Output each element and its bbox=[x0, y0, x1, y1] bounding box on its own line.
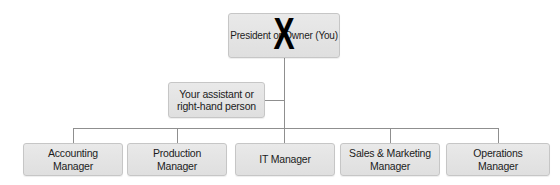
root-node-label: President or Owner (You) bbox=[230, 30, 338, 42]
connector-drop-accounting bbox=[73, 128, 74, 143]
manager-node-production: Production Manager bbox=[127, 143, 227, 176]
connector-drop-operations bbox=[498, 128, 499, 143]
org-chart-canvas: President or Owner (You) X Your assistan… bbox=[0, 0, 560, 185]
connector-assistant-horizontal bbox=[265, 100, 284, 101]
assistant-node: Your assistant or right-hand person bbox=[168, 82, 265, 118]
manager-node-label: Production Manager bbox=[134, 147, 220, 171]
manager-node-accounting: Accounting Manager bbox=[23, 143, 123, 176]
manager-node-operations: Operations Manager bbox=[446, 143, 550, 176]
manager-node-label: Accounting Manager bbox=[30, 147, 116, 171]
root-node-president-owner: President or Owner (You) bbox=[228, 13, 340, 58]
manager-node-label: IT Manager bbox=[259, 153, 311, 165]
assistant-node-label: Your assistant or right-hand person bbox=[175, 88, 258, 112]
manager-node-label: Sales & Marketing Manager bbox=[347, 147, 433, 171]
connector-trunk-vertical bbox=[284, 58, 285, 143]
manager-node-it: IT Manager bbox=[235, 143, 335, 176]
connector-main-horizontal bbox=[73, 128, 499, 129]
connector-drop-sales-marketing bbox=[390, 128, 391, 143]
connector-drop-production bbox=[177, 128, 178, 143]
manager-node-sales-marketing: Sales & Marketing Manager bbox=[340, 143, 440, 176]
manager-node-label: Operations Manager bbox=[453, 147, 543, 171]
